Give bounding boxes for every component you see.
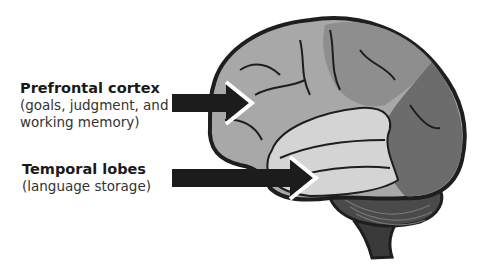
brain-diagram	[0, 0, 499, 267]
